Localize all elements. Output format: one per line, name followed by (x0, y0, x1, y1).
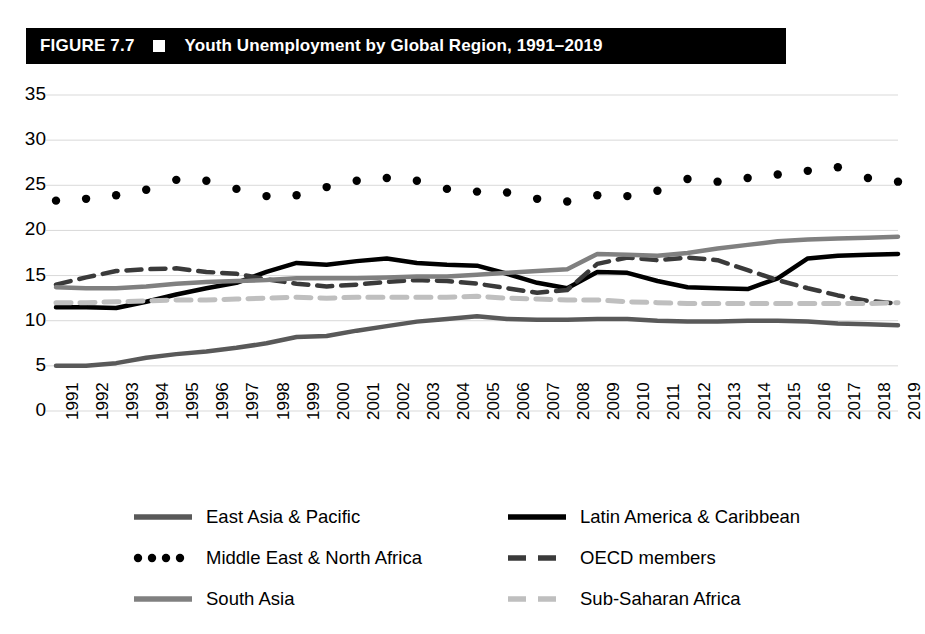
x-tick-label: 2012 (695, 382, 715, 420)
figure-title-bar: FIGURE 7.7 Youth Unemployment by Global … (26, 28, 786, 64)
x-tick-label: 2019 (905, 382, 925, 420)
series-line (56, 296, 898, 303)
legend-label: East Asia & Pacific (206, 506, 360, 528)
legend-swatch-icon (132, 508, 194, 526)
x-tick-label: 2017 (845, 382, 865, 420)
data-point (413, 177, 421, 185)
data-point (322, 183, 330, 191)
legend-item[interactable]: East Asia & Pacific (132, 498, 360, 536)
x-tick-label: 2008 (574, 382, 594, 420)
chart-legend: East Asia & PacificLatin America & Carib… (132, 498, 892, 623)
legend-label: South Asia (206, 588, 294, 610)
x-tick-label: 2005 (484, 382, 504, 420)
x-tick-label: 2014 (755, 382, 775, 420)
x-tick-label: 2009 (604, 382, 624, 420)
legend-swatch-icon (506, 590, 568, 608)
x-tick-label: 1991 (63, 382, 83, 420)
x-tick-label: 2016 (815, 382, 835, 420)
legend-swatch-icon (506, 508, 568, 526)
data-point (112, 191, 120, 199)
white-square-icon (153, 40, 165, 52)
x-tick-label: 2011 (664, 383, 684, 420)
legend-item[interactable]: South Asia (132, 580, 294, 618)
x-tick-label: 2004 (454, 382, 474, 420)
y-tick-label: 5 (8, 354, 46, 376)
x-tick-label: 1998 (274, 382, 294, 420)
x-tick-label: 2007 (544, 382, 564, 420)
x-tick-label: 2000 (334, 382, 354, 420)
series-line (56, 316, 898, 366)
x-tick-label: 2006 (514, 382, 534, 420)
x-tick-label: 1996 (213, 382, 233, 420)
data-point (172, 176, 180, 184)
legend-item[interactable]: OECD members (506, 539, 716, 577)
legend-item[interactable]: Middle East & North Africa (132, 539, 422, 577)
x-tick-label: 1992 (93, 382, 113, 420)
data-point (82, 195, 90, 203)
x-tick-label: 2010 (634, 382, 654, 420)
data-point (292, 191, 300, 199)
data-point (774, 170, 782, 178)
legend-label: OECD members (580, 547, 716, 569)
data-point (653, 187, 661, 195)
data-point (52, 196, 60, 204)
chart-plot-area: 05101520253035 (0, 74, 915, 424)
data-point (473, 187, 481, 195)
x-tick-label: 2002 (394, 382, 414, 420)
data-point (383, 174, 391, 182)
legend-item[interactable]: Sub-Saharan Africa (506, 580, 740, 618)
data-point (232, 185, 240, 193)
data-point (713, 177, 721, 185)
data-point (683, 175, 691, 183)
data-point (533, 195, 541, 203)
x-axis-labels: 1991199219931994199519961997199819992000… (0, 418, 915, 488)
x-tick-label: 1995 (183, 382, 203, 420)
x-tick-label: 1999 (304, 382, 324, 420)
x-tick-label: 2013 (725, 382, 745, 420)
y-tick-label: 15 (8, 264, 46, 286)
series-group (52, 163, 902, 366)
y-tick-label: 25 (8, 173, 46, 195)
data-point (804, 167, 812, 175)
x-tick-label: 2001 (364, 382, 384, 420)
data-point (834, 163, 842, 171)
data-point (743, 174, 751, 182)
data-point (563, 197, 571, 205)
legend-label: Latin America & Caribbean (580, 506, 800, 528)
x-tick-label: 2018 (875, 382, 895, 420)
x-tick-label: 1997 (243, 382, 263, 420)
y-tick-label: 30 (8, 128, 46, 150)
y-tick-label: 20 (8, 218, 46, 240)
data-point (864, 174, 872, 182)
x-tick-label: 1993 (123, 382, 143, 420)
legend-label: Sub-Saharan Africa (580, 588, 740, 610)
data-point (593, 191, 601, 199)
data-point (262, 192, 270, 200)
y-tick-label: 35 (8, 83, 46, 105)
legend-swatch-icon (506, 549, 568, 567)
gridlines-group (46, 95, 898, 411)
x-tick-label: 1994 (153, 382, 173, 420)
x-tick-label: 2015 (785, 382, 805, 420)
legend-label: Middle East & North Africa (206, 547, 422, 569)
y-tick-label: 10 (8, 309, 46, 331)
x-tick-label: 2003 (424, 382, 444, 420)
figure-number: FIGURE 7.7 (40, 36, 135, 56)
data-point (503, 188, 511, 196)
data-point (623, 192, 631, 200)
data-point (894, 177, 902, 185)
data-point (443, 185, 451, 193)
legend-swatch-icon (132, 590, 194, 608)
line-chart-svg (0, 74, 915, 424)
legend-item[interactable]: Latin America & Caribbean (506, 498, 800, 536)
legend-swatch-icon (132, 549, 194, 567)
data-point (353, 177, 361, 185)
data-point (142, 186, 150, 194)
page-title: Youth Unemployment by Global Region, 199… (185, 36, 603, 56)
data-point (202, 177, 210, 185)
